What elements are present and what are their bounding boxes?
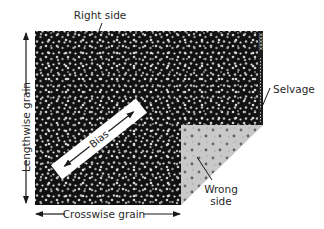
right-side-leader [99,23,102,31]
crosswise-grain-arrow: Crosswise grain [36,208,180,220]
selvage-marks: XXXXX [258,33,264,51]
selvage-callout: Selvage [259,83,315,114]
diagram-svg: XXXXX Bias Lengthwise grain Crosswise gr… [0,0,324,229]
selvage-label: Selvage [273,83,315,95]
fabric-grain-diagram: XXXXX Bias Lengthwise grain Crosswise gr… [0,0,324,229]
lengthwise-grain-arrow: Lengthwise grain [20,33,32,203]
lengthwise-grain-label: Lengthwise grain [20,82,32,172]
right-side-callout: Right side [74,9,127,31]
crosswise-grain-label: Crosswise grain [63,208,146,220]
right-side-label: Right side [74,9,127,21]
wrong-side-label-line2: side [210,195,232,207]
wrong-side-label-line1: Wrong [204,183,238,195]
